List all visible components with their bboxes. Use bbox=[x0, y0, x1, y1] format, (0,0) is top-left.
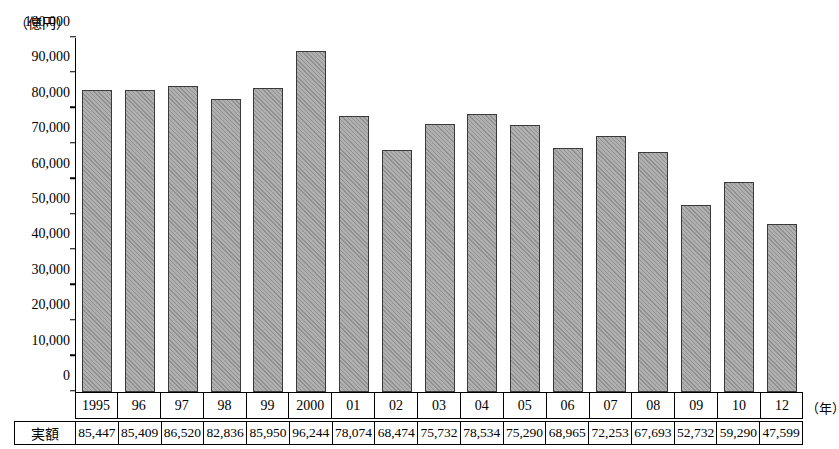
bar bbox=[125, 90, 155, 392]
table-cell: 47,599 bbox=[760, 422, 802, 444]
chart-root: （億円） 010,00020,00030,00040,00050,00060,0… bbox=[0, 0, 839, 449]
x-tick-label: 02 bbox=[375, 393, 418, 419]
x-tick-label: 1995 bbox=[75, 393, 118, 419]
y-tick-label: 50,000 bbox=[32, 191, 77, 207]
y-tick-label: 70,000 bbox=[32, 120, 77, 136]
x-tick-label: 03 bbox=[418, 393, 461, 419]
y-tick-label: 60,000 bbox=[32, 156, 77, 172]
table-cell: 78,074 bbox=[333, 422, 376, 444]
x-tick-label: 08 bbox=[632, 393, 675, 419]
bar-cell bbox=[333, 38, 376, 392]
bar bbox=[425, 124, 455, 392]
x-tick-label: 2000 bbox=[289, 393, 332, 419]
x-tick-label: 97 bbox=[161, 393, 204, 419]
bar-series bbox=[76, 38, 803, 392]
bar-cell bbox=[632, 38, 675, 392]
table-cell: 59,290 bbox=[717, 422, 760, 444]
x-tick-label: 98 bbox=[204, 393, 247, 419]
x-tick-label: 04 bbox=[461, 393, 504, 419]
plot-area: 010,00020,00030,00040,00050,00060,00070,… bbox=[75, 38, 803, 393]
bar bbox=[510, 125, 540, 392]
x-tick-label: 96 bbox=[118, 393, 161, 419]
bar-cell bbox=[461, 38, 504, 392]
x-tick-label: 01 bbox=[332, 393, 375, 419]
bar-cell bbox=[247, 38, 290, 392]
bar-cell bbox=[717, 38, 760, 392]
bar bbox=[467, 114, 497, 392]
table-row: 85,44785,40986,52082,83685,95096,24478,0… bbox=[76, 422, 802, 444]
bar bbox=[253, 88, 283, 392]
bar bbox=[168, 86, 198, 392]
bar-cell bbox=[504, 38, 547, 392]
bar-cell bbox=[76, 38, 119, 392]
bar-cell bbox=[204, 38, 247, 392]
table-cell: 67,693 bbox=[632, 422, 675, 444]
data-table: 実額 85,44785,40986,52082,83685,95096,2447… bbox=[14, 421, 803, 445]
x-axis-unit-label: （年） bbox=[806, 398, 839, 417]
y-tick-label: 10,000 bbox=[32, 333, 77, 349]
y-tick-label: 30,000 bbox=[32, 262, 77, 278]
y-tick-label: 90,000 bbox=[32, 49, 77, 65]
y-tick-label: 0 bbox=[63, 368, 76, 384]
x-tick-label: 10 bbox=[718, 393, 761, 419]
table-cell: 85,447 bbox=[76, 422, 119, 444]
bar bbox=[82, 90, 112, 392]
table-cell: 75,290 bbox=[504, 422, 547, 444]
table-cell: 96,244 bbox=[290, 422, 333, 444]
table-row-header: 実額 bbox=[15, 422, 76, 444]
bar bbox=[638, 152, 668, 392]
x-tick-label: 99 bbox=[247, 393, 290, 419]
bar-cell bbox=[162, 38, 205, 392]
y-tick-label: 100,000 bbox=[25, 14, 77, 30]
bar-cell bbox=[760, 38, 803, 392]
x-tick-label: 05 bbox=[504, 393, 547, 419]
table-cell: 85,409 bbox=[119, 422, 162, 444]
bar-cell bbox=[418, 38, 461, 392]
bar bbox=[382, 150, 412, 392]
table-cell: 68,474 bbox=[375, 422, 418, 444]
bar bbox=[339, 116, 369, 392]
bar-cell bbox=[119, 38, 162, 392]
bar-cell bbox=[375, 38, 418, 392]
table-cell: 72,253 bbox=[589, 422, 632, 444]
x-tick-label: 12 bbox=[761, 393, 803, 419]
bar bbox=[596, 136, 626, 392]
y-tick-label: 40,000 bbox=[32, 226, 77, 242]
bar bbox=[724, 182, 754, 392]
table-cell: 52,732 bbox=[675, 422, 718, 444]
table-cell: 68,965 bbox=[546, 422, 589, 444]
bar-cell bbox=[546, 38, 589, 392]
x-axis-labels: 19959697989920000102030405060708091012 bbox=[75, 393, 803, 419]
bar bbox=[681, 205, 711, 392]
bar-cell bbox=[675, 38, 718, 392]
bar-cell bbox=[290, 38, 333, 392]
x-tick-label: 06 bbox=[547, 393, 590, 419]
table-cell: 75,732 bbox=[418, 422, 461, 444]
x-tick-label: 09 bbox=[675, 393, 718, 419]
table-cell: 78,534 bbox=[461, 422, 504, 444]
bar bbox=[553, 148, 583, 392]
table-cell: 82,836 bbox=[204, 422, 247, 444]
bar bbox=[211, 99, 241, 392]
table-cell: 85,950 bbox=[247, 422, 290, 444]
x-tick-label: 07 bbox=[590, 393, 633, 419]
y-tick-label: 80,000 bbox=[32, 85, 77, 101]
bar bbox=[767, 224, 797, 393]
bar-cell bbox=[589, 38, 632, 392]
y-tick-label: 20,000 bbox=[32, 297, 77, 313]
bar bbox=[296, 51, 326, 392]
table-cell: 86,520 bbox=[162, 422, 205, 444]
